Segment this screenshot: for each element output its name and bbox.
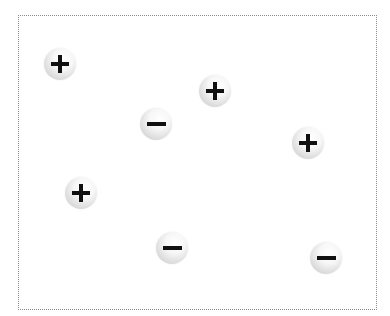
- plus-icon: [65, 177, 97, 209]
- positive-charge: [199, 75, 231, 107]
- positive-charge: [292, 127, 324, 159]
- minus-icon: [140, 108, 172, 140]
- negative-charge: [156, 232, 188, 264]
- positive-charge: [65, 177, 97, 209]
- positive-charge: [44, 48, 76, 80]
- plus-icon: [199, 75, 231, 107]
- negative-charge: [310, 242, 342, 274]
- plus-icon: [44, 48, 76, 80]
- negative-charge: [140, 108, 172, 140]
- minus-icon: [310, 242, 342, 274]
- minus-icon: [156, 232, 188, 264]
- plus-icon: [292, 127, 324, 159]
